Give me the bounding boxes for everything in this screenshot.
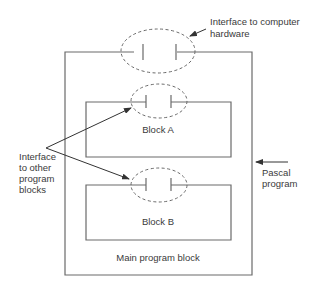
hardware-interface-label-line2: hardware [210,28,250,39]
hardware-arrow [190,29,206,36]
other-interface-label-line4: blocks [19,184,46,195]
other-interface-label-line3: program [19,173,54,184]
hardware-interface-ellipse [121,29,195,73]
main-block-label: Main program block [116,252,200,263]
program-structure-diagram: Interface to computer hardware Block A B… [0,0,311,290]
other-interface-label-line1: Interface [19,151,56,162]
other-interface-label-line2: to other [19,162,51,173]
block-a-interface-arrow [46,108,131,148]
block-b-interface-arrow [46,148,129,179]
pascal-program-label-line2: program [262,178,297,189]
block-a-interface-ellipse [131,84,187,118]
main-program-block [65,52,252,275]
hardware-interface-label-line1: Interface to computer [210,16,300,27]
block-b [86,168,231,240]
block-a [86,84,231,157]
block-b-label: Block B [142,216,174,227]
hardware-interface [121,29,195,73]
pascal-program-label-line1: Pascal [262,167,291,178]
block-a-label: Block A [142,124,174,135]
